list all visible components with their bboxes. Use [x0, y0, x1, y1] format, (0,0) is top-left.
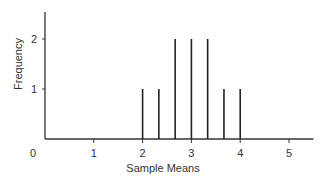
bars — [143, 39, 241, 139]
axes — [45, 12, 313, 139]
x-tick-label: 2 — [140, 147, 146, 159]
ticks: 01234512 — [30, 33, 292, 159]
x-tick-label: 5 — [286, 147, 292, 159]
x-tick-label: 0 — [30, 147, 36, 159]
x-tick-label: 4 — [237, 147, 243, 159]
y-tick-label: 1 — [31, 83, 37, 95]
x-axis-label: Sample Means — [126, 162, 200, 174]
x-tick-label: 1 — [91, 147, 97, 159]
x-tick-label: 3 — [188, 147, 194, 159]
y-tick-label: 2 — [31, 33, 37, 45]
y-axis-label: Frequency — [12, 38, 24, 90]
chart: 01234512 Sample Means Frequency — [0, 0, 327, 180]
